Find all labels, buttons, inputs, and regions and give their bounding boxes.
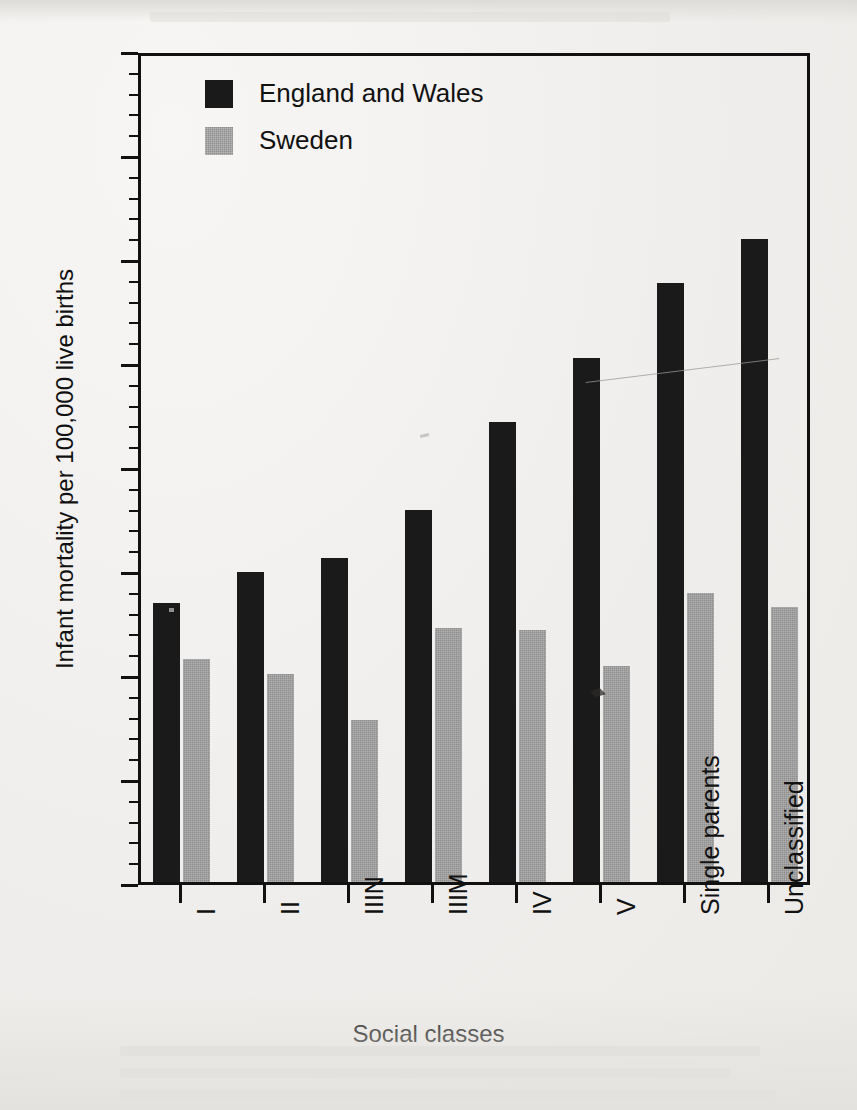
legend-swatch-icon: [205, 127, 233, 155]
y-axis-minor-tick: [129, 738, 138, 740]
y-axis-minor-tick: [129, 343, 138, 345]
chart-legend: England and WalesSweden: [205, 78, 484, 172]
y-axis-minor-tick: [129, 489, 138, 491]
y-axis-major-tick: [121, 884, 138, 887]
x-axis-tick: [347, 885, 350, 903]
bar-england-and-wales-i: [153, 603, 180, 882]
x-axis-tick-label: Single parents: [696, 755, 725, 915]
y-axis-minor-tick: [129, 759, 138, 761]
x-axis-tick: [263, 885, 266, 903]
x-axis-tick-label: V: [612, 898, 641, 915]
chart-page: 025050075010001250150017502000 Infant mo…: [0, 0, 857, 1110]
y-axis-minor-tick: [129, 551, 138, 553]
y-axis-major-tick: [121, 572, 138, 575]
bar-sweden-iiim: [435, 628, 462, 882]
bar-england-and-wales-single-parents: [657, 283, 684, 882]
x-axis-tick-label: II: [276, 901, 305, 915]
x-axis-tick-label: IIIM: [444, 873, 473, 915]
y-axis-minor-tick: [129, 177, 138, 179]
x-axis-tick-label: IIIN: [360, 876, 389, 915]
bar-england-and-wales-v: [573, 358, 600, 882]
bar-england-and-wales-iiim: [405, 510, 432, 882]
y-axis-minor-tick: [129, 385, 138, 387]
legend-label: Sweden: [259, 125, 353, 156]
legend-item: Sweden: [205, 125, 484, 156]
y-axis-major-tick: [121, 52, 138, 55]
x-axis-tick: [431, 885, 434, 903]
bar-england-and-wales-ii: [237, 572, 264, 882]
legend-swatch-icon: [205, 80, 233, 108]
x-axis-tick: [767, 885, 770, 903]
y-axis-minor-tick: [129, 447, 138, 449]
x-axis-title: Social classes: [0, 1020, 857, 1048]
y-axis-minor-tick: [129, 593, 138, 595]
y-axis-major-tick: [121, 780, 138, 783]
y-axis-minor-tick: [129, 634, 138, 636]
bar-england-and-wales-unclassified: [741, 239, 768, 882]
bar-sweden-iiin: [351, 720, 378, 882]
x-axis-tick: [683, 885, 686, 903]
y-axis-minor-tick: [129, 281, 138, 283]
x-axis-tick-label: I: [192, 908, 221, 915]
y-axis-major-tick: [121, 676, 138, 679]
legend-label: England and Wales: [259, 78, 484, 109]
bar-sweden-iv: [519, 630, 546, 882]
bar-sweden-i: [183, 659, 210, 882]
y-axis-minor-tick: [129, 614, 138, 616]
y-axis-minor-tick: [129, 114, 138, 116]
bar-sweden-v: [603, 666, 630, 882]
y-axis-minor-tick: [129, 510, 138, 512]
bar-sweden-ii: [267, 674, 294, 882]
legend-item: England and Wales: [205, 78, 484, 109]
y-axis-minor-tick: [129, 842, 138, 844]
y-axis-major-tick: [121, 364, 138, 367]
y-axis-minor-tick: [129, 94, 138, 96]
y-axis-major-tick: [121, 156, 138, 159]
x-axis-tick-label: IV: [528, 891, 557, 915]
y-axis-major-tick: [121, 468, 138, 471]
y-axis-minor-tick: [129, 135, 138, 137]
y-axis-minor-tick: [129, 239, 138, 241]
y-axis-minor-tick: [129, 822, 138, 824]
y-axis-minor-tick: [129, 863, 138, 865]
x-axis-tick: [515, 885, 518, 903]
y-axis-major-tick: [121, 260, 138, 263]
y-axis-minor-tick: [129, 530, 138, 532]
x-axis-tick: [179, 885, 182, 903]
y-axis-minor-tick: [129, 302, 138, 304]
y-axis-minor-tick: [129, 426, 138, 428]
y-axis-minor-tick: [129, 697, 138, 699]
y-axis-minor-tick: [129, 218, 138, 220]
y-axis-minor-tick: [129, 655, 138, 657]
y-axis-minor-tick: [129, 322, 138, 324]
y-axis-title: Infant mortality per 100,000 live births: [51, 189, 79, 749]
bar-england-and-wales-iiin: [321, 558, 348, 882]
y-axis-minor-tick: [129, 406, 138, 408]
bar-england-and-wales-iv: [489, 422, 516, 882]
y-axis-minor-tick: [129, 718, 138, 720]
y-axis-minor-tick: [129, 73, 138, 75]
x-axis-tick: [599, 885, 602, 903]
y-axis-minor-tick: [129, 198, 138, 200]
bar-chart: 025050075010001250150017502000 Infant mo…: [0, 0, 857, 1110]
y-axis-minor-tick: [129, 801, 138, 803]
x-axis-tick-label: Unclassified: [780, 780, 809, 915]
